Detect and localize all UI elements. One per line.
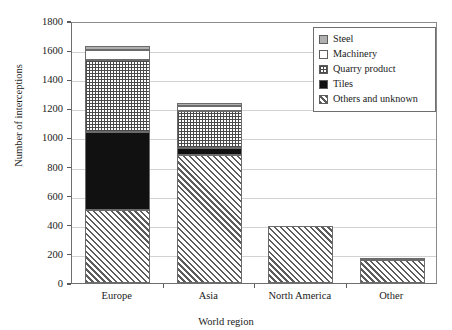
legend-item-steel[interactable]: Steel xyxy=(319,32,430,47)
y-tick-label: 1000 xyxy=(0,133,63,144)
bar-segment-steel[interactable] xyxy=(85,46,150,50)
legend-item-quarry-product[interactable]: Quarry product xyxy=(319,62,430,77)
bar-segment-machinery[interactable] xyxy=(85,50,150,60)
bar-segment-others-and-unknown[interactable] xyxy=(85,210,150,283)
legend-swatch-icon xyxy=(319,65,328,74)
y-tick-label: 1800 xyxy=(0,17,63,28)
y-tick-label: 1600 xyxy=(0,46,63,57)
bar-segment-others-and-unknown[interactable] xyxy=(268,226,333,283)
x-tick-mark xyxy=(254,284,255,288)
legend-swatch-icon xyxy=(319,50,328,59)
bar-europe[interactable] xyxy=(85,21,150,283)
bar-segment-quarry-product[interactable] xyxy=(85,60,150,131)
x-tick-label: Other xyxy=(331,291,451,302)
x-tick-mark xyxy=(346,284,347,288)
y-tick-label: 0 xyxy=(0,279,63,290)
bar-segment-steel[interactable] xyxy=(177,103,242,107)
legend-item-tiles[interactable]: Tiles xyxy=(319,77,430,92)
legend-item-label: Steel xyxy=(333,34,353,44)
bar-segment-others-and-unknown[interactable] xyxy=(177,155,242,283)
legend-item-label: Tiles xyxy=(333,79,353,89)
legend-swatch-icon xyxy=(319,95,328,104)
legend-swatch-icon xyxy=(319,35,328,44)
legend-swatch-icon xyxy=(319,80,328,89)
bar-segment-tiles[interactable] xyxy=(85,132,150,211)
y-tick-label: 200 xyxy=(0,250,63,261)
y-tick-label: 1200 xyxy=(0,104,63,115)
legend-item-others-and-unknown[interactable]: Others and unknown xyxy=(319,92,430,107)
y-tick-label: 800 xyxy=(0,163,63,174)
bar-asia[interactable] xyxy=(177,21,242,283)
chart-figure: Number of interceptions 0200400600800100… xyxy=(0,0,452,330)
chart-legend: SteelMachineryQuarry productTilesOthers … xyxy=(313,27,436,112)
legend-item-machinery[interactable]: Machinery xyxy=(319,47,430,62)
y-tick-label: 1400 xyxy=(0,75,63,86)
bar-segment-quarry-product[interactable] xyxy=(177,111,242,147)
bar-segment-quarry-product[interactable] xyxy=(360,258,425,261)
y-tick-label: 600 xyxy=(0,192,63,203)
y-tick-label: 400 xyxy=(0,221,63,232)
legend-item-label: Others and unknown xyxy=(333,94,418,104)
legend-item-label: Quarry product xyxy=(333,64,396,74)
bar-segment-machinery[interactable] xyxy=(177,106,242,111)
bar-segment-others-and-unknown[interactable] xyxy=(360,260,425,283)
bar-segment-tiles[interactable] xyxy=(177,148,242,155)
x-axis-title: World region xyxy=(0,316,452,327)
legend-item-label: Machinery xyxy=(333,49,377,59)
x-tick-mark xyxy=(163,284,164,288)
